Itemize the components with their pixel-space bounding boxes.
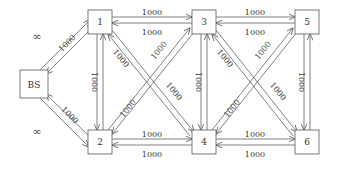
label-3-6-upper: 1000 [215,48,235,69]
node-bs: BS [20,70,48,98]
node-bs-label: BS [28,80,41,90]
label-4-5-lower: 1000 [222,98,242,119]
label-2-4-top: 1000 [142,130,162,139]
node-5-label: 5 [304,17,310,27]
edges [40,17,310,147]
node-3-label: 3 [201,17,207,27]
node-2: 2 [88,130,112,154]
label-bs-1-inf: ∞ [32,30,41,43]
label-2-bs: 1000 [59,105,80,126]
label-1-4-upper: 1000 [111,48,131,69]
node-2-label: 2 [97,137,103,147]
label-4-6-top: 1000 [245,130,265,139]
label-4-6-bottom: 1000 [245,150,265,159]
node-3: 3 [192,10,216,34]
label-3-5-top: 1000 [245,8,265,17]
node-1-label: 1 [97,17,103,27]
label-5-6: 1000 [297,72,306,92]
node-4: 4 [192,130,216,154]
label-1-3-top: 1000 [142,8,162,17]
node-6: 6 [295,130,319,154]
label-2-3-lower: 1000 [118,98,138,119]
node-5: 5 [295,10,319,34]
label-bs-2-inf: ∞ [32,125,41,138]
label-1-3-bottom: 1000 [142,28,162,37]
label-2-4-bottom: 1000 [142,150,162,159]
label-1-2: 1000 [90,72,99,92]
network-diagram: ∞ 1000 ∞ 1000 1000 1000 1000 1000 1000 1… [0,0,337,170]
label-3-4: 1000 [194,72,203,92]
node-6-label: 6 [304,137,310,147]
edge-labels: ∞ 1000 ∞ 1000 1000 1000 1000 1000 1000 1… [32,8,306,159]
node-4-label: 4 [201,137,207,147]
node-1: 1 [88,10,112,34]
label-3-5-bottom: 1000 [245,28,265,37]
label-4-5-upper: 1000 [253,40,273,61]
